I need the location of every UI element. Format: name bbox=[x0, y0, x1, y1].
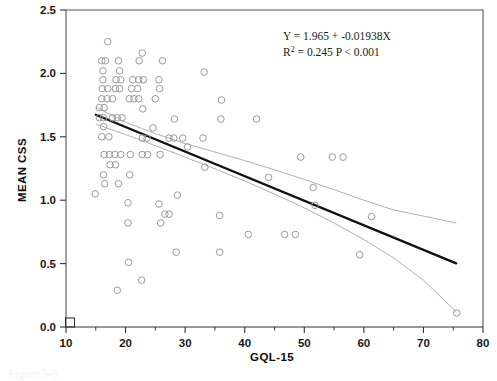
y-tick-label: 0.0 bbox=[40, 321, 56, 333]
x-tick-label: 80 bbox=[477, 337, 490, 349]
y-axis-title: MEAN CSS bbox=[16, 138, 28, 202]
r-squared-rest: = 0.245 P < 0.001 bbox=[295, 46, 380, 58]
y-tick-label: 2.5 bbox=[40, 4, 57, 16]
x-tick-label: 70 bbox=[417, 337, 430, 349]
x-tick-label: 50 bbox=[298, 337, 311, 349]
scatter-plot: 0.00.51.01.52.02.51020304050607080 MEAN … bbox=[0, 0, 497, 381]
y-tick-label: 1.0 bbox=[40, 194, 56, 206]
x-axis-title: GQL-15 bbox=[250, 351, 294, 363]
figure-container: 0.00.51.01.52.02.51020304050607080 MEAN … bbox=[0, 0, 497, 381]
y-tick-label: 2.0 bbox=[40, 67, 56, 79]
r-squared-annotation: R2 = 0.245 P < 0.001 bbox=[283, 45, 380, 58]
x-tick-label: 20 bbox=[119, 337, 132, 349]
y-tick-label: 1.5 bbox=[40, 131, 57, 143]
x-tick-label: 10 bbox=[60, 337, 73, 349]
x-tick-label: 60 bbox=[357, 337, 370, 349]
y-tick-label: 0.5 bbox=[40, 258, 57, 270]
figure-caption-fragment: Figure 5-3 bbox=[8, 367, 58, 381]
x-tick-label: 30 bbox=[179, 337, 192, 349]
regression-equation-annotation: Y = 1.965 + -0.01938X bbox=[283, 30, 391, 42]
x-tick-label: 40 bbox=[238, 337, 251, 349]
